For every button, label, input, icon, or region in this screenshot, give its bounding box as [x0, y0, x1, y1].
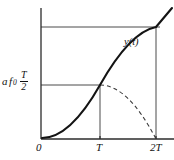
x-axis-tick-label-2T: 2T [150, 142, 162, 153]
figure-container: a f 0 T 2 0 T 2T y(t) [0, 0, 174, 160]
dashed-parabola-continuation [100, 85, 156, 139]
y-axis-label-coefficient: a [2, 76, 8, 87]
fraction-numerator: T [20, 70, 28, 81]
y-axis-label-subscript: 0 [13, 79, 17, 87]
y-axis-label: a f 0 T 2 [2, 70, 28, 92]
y-axis-label-symbol: f [9, 76, 12, 87]
curve-label-yt: y(t) [124, 37, 139, 48]
y-axis-label-fraction: T 2 [20, 70, 28, 92]
x-axis-tick-label-T: T [96, 142, 102, 153]
fraction-denominator: 2 [20, 82, 27, 93]
x-axis-tick-label-0: 0 [36, 142, 42, 153]
